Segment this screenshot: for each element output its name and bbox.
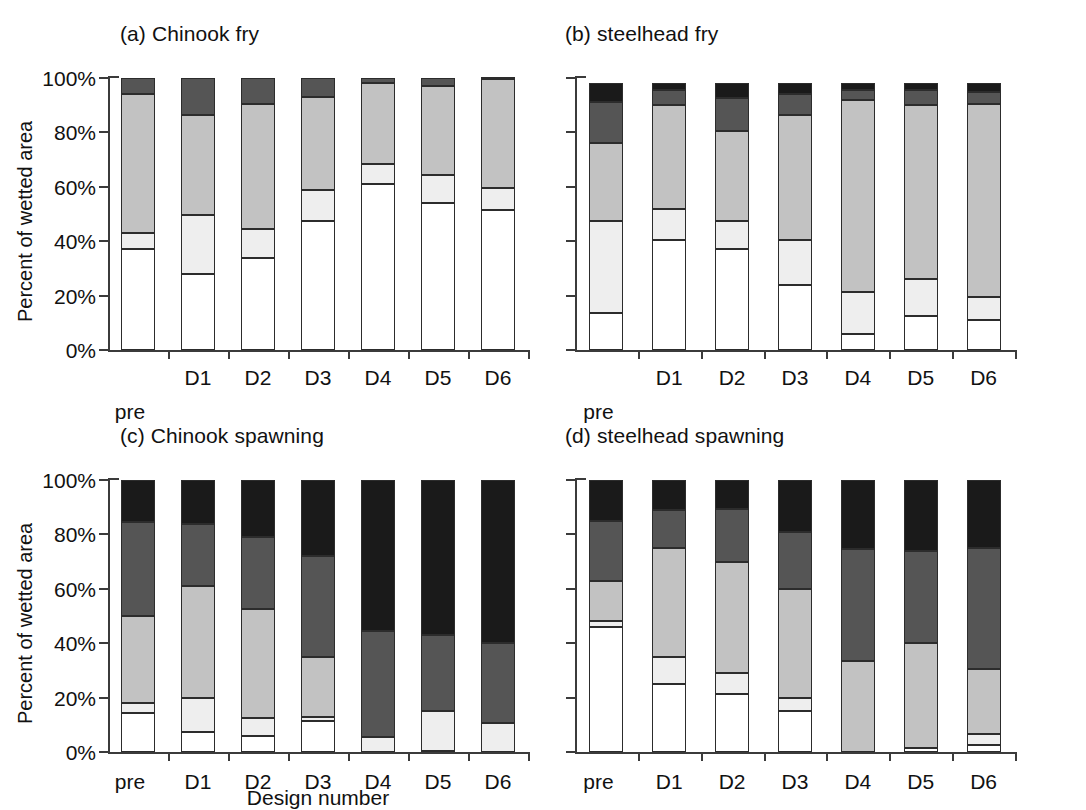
bar-segment-light-gray[interactable] [904,279,938,316]
bar-segment-black[interactable] [589,480,623,521]
bar-segment-white[interactable] [967,320,1001,350]
bar-b-D1[interactable] [652,78,686,350]
bar-segment-black[interactable] [652,480,686,510]
bar-segment-light-gray[interactable] [181,215,215,273]
bar-segment-dark-gray[interactable] [652,510,686,548]
bar-c-D1[interactable] [181,480,215,752]
bar-segment-white[interactable] [778,711,812,752]
bar-segment-mid-gray[interactable] [241,104,275,229]
bar-b-D2[interactable] [715,78,749,350]
bar-segment-white[interactable] [181,732,215,752]
bar-a-D5[interactable] [421,78,455,350]
bar-segment-white[interactable] [241,258,275,350]
bar-segment-mid-gray[interactable] [301,657,335,717]
bar-segment-white[interactable] [715,694,749,752]
bar-segment-light-gray[interactable] [301,190,335,221]
bar-segment-black[interactable] [715,480,749,509]
bar-segment-light-gray[interactable] [241,718,275,736]
bar-segment-black[interactable] [967,83,1001,91]
bar-segment-dark-gray[interactable] [589,521,623,581]
bar-segment-dark-gray[interactable] [652,90,686,105]
bar-segment-white[interactable] [715,249,749,350]
bar-segment-light-gray[interactable] [481,723,515,752]
bar-segment-light-gray[interactable] [652,209,686,240]
bar-b-D5[interactable] [904,78,938,350]
bar-segment-white[interactable] [904,748,938,752]
bar-segment-dark-gray[interactable] [301,556,335,657]
bar-segment-white[interactable] [481,210,515,350]
bar-segment-light-gray[interactable] [121,703,155,713]
bar-segment-black[interactable] [241,480,275,537]
bar-segment-white[interactable] [967,745,1001,752]
bar-c-D3[interactable] [301,480,335,752]
bar-segment-mid-gray[interactable] [421,86,455,174]
bar-segment-black[interactable] [589,83,623,102]
bar-b-D3[interactable] [778,78,812,350]
bar-segment-white[interactable] [589,627,623,752]
bar-segment-dark-gray[interactable] [481,77,515,79]
bar-segment-black[interactable] [301,480,335,556]
bar-segment-mid-gray[interactable] [241,609,275,718]
bar-segment-mid-gray[interactable] [904,643,938,748]
bar-segment-mid-gray[interactable] [967,104,1001,297]
bar-d-D5[interactable] [904,480,938,752]
bar-segment-light-gray[interactable] [421,175,455,204]
bar-segment-black[interactable] [904,480,938,551]
bar-c-D2[interactable] [241,480,275,752]
bar-segment-light-gray[interactable] [967,297,1001,320]
bar-segment-dark-gray[interactable] [181,78,215,115]
bar-segment-white[interactable] [181,274,215,350]
bar-segment-mid-gray[interactable] [715,131,749,221]
bar-segment-mid-gray[interactable] [589,581,623,622]
bar-segment-dark-gray[interactable] [904,551,938,643]
bar-segment-light-gray[interactable] [841,292,875,334]
bar-segment-white[interactable] [589,313,623,350]
bar-a-D6[interactable] [481,78,515,350]
bar-d-D2[interactable] [715,480,749,752]
bar-segment-mid-gray[interactable] [181,115,215,216]
bar-segment-dark-gray[interactable] [481,643,515,723]
bar-segment-black[interactable] [841,83,875,90]
bar-c-D5[interactable] [421,480,455,752]
bar-c-D4[interactable] [361,480,395,752]
bar-c-pre[interactable] [121,480,155,752]
bar-segment-dark-gray[interactable] [121,78,155,94]
bar-a-D4[interactable] [361,78,395,350]
bar-segment-light-gray[interactable] [778,240,812,285]
bar-segment-white[interactable] [301,721,335,752]
bar-segment-white[interactable] [301,221,335,350]
bar-segment-black[interactable] [904,83,938,90]
bar-b-D6[interactable] [967,78,1001,350]
bar-segment-dark-gray[interactable] [181,524,215,587]
bar-segment-dark-gray[interactable] [841,549,875,661]
bar-segment-light-gray[interactable] [241,229,275,258]
bar-segment-black[interactable] [841,480,875,549]
bar-d-D1[interactable] [652,480,686,752]
bar-segment-light-gray[interactable] [361,737,395,752]
bar-b-D4[interactable] [841,78,875,350]
bar-segment-mid-gray[interactable] [361,83,395,163]
bar-segment-dark-gray[interactable] [361,78,395,83]
bar-segment-white[interactable] [121,713,155,752]
bar-b-pre[interactable] [589,78,623,350]
bar-segment-mid-gray[interactable] [778,589,812,698]
bar-d-pre[interactable] [589,480,623,752]
bar-segment-white[interactable] [652,240,686,350]
bar-segment-dark-gray[interactable] [967,92,1001,104]
bar-d-D6[interactable] [967,480,1001,752]
bar-segment-light-gray[interactable] [589,621,623,626]
bar-segment-light-gray[interactable] [589,221,623,313]
bar-segment-mid-gray[interactable] [301,97,335,189]
bar-segment-white[interactable] [904,316,938,350]
bar-segment-black[interactable] [121,480,155,522]
bar-a-D3[interactable] [301,78,335,350]
bar-segment-white[interactable] [652,684,686,752]
bar-segment-mid-gray[interactable] [652,548,686,657]
bar-segment-mid-gray[interactable] [652,105,686,208]
bar-segment-white[interactable] [121,249,155,350]
bar-c-D6[interactable] [481,480,515,752]
bar-segment-white[interactable] [778,285,812,350]
bar-segment-dark-gray[interactable] [121,522,155,616]
bar-d-D3[interactable] [778,480,812,752]
bar-segment-mid-gray[interactable] [841,100,875,292]
